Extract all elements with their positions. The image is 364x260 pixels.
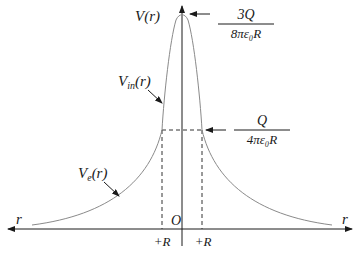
y-axis-label: V(r) xyxy=(135,8,160,25)
svg-text:8πε₀R: 8πε₀R xyxy=(231,26,262,41)
inside-curve-label: Vin(r) xyxy=(118,73,151,91)
peak-value-label: 3Q 8πε₀R xyxy=(218,7,274,41)
surface-value-label: Q 4πε₀R xyxy=(234,113,290,147)
origin-label: O xyxy=(171,213,181,228)
right-radius-label: +R xyxy=(195,234,212,249)
svg-text:4πε₀R: 4πε₀R xyxy=(247,132,278,147)
potential-diagram: V(r) 3Q 8πε₀R Q 4πε₀R Vin(r) Ve(r) r r O… xyxy=(0,0,364,260)
annotation-arrows xyxy=(104,14,226,196)
left-radius-label: +R xyxy=(154,234,171,249)
x-axis-label-left: r xyxy=(16,211,22,227)
outside-curve-label: Ve(r) xyxy=(78,165,107,183)
svg-text:3Q: 3Q xyxy=(236,7,254,22)
svg-text:Q: Q xyxy=(257,113,267,128)
x-axis-label-right: r xyxy=(342,211,348,227)
